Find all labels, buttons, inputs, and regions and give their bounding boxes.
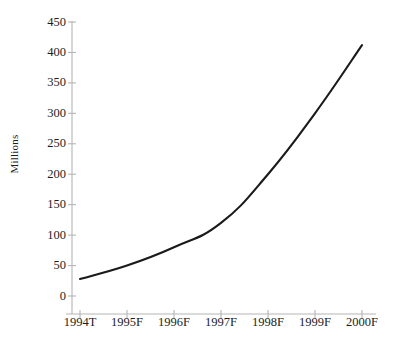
y-axis-tick-label: 0	[60, 290, 66, 303]
axis-tick-marks	[68, 22, 362, 319]
plot-area	[72, 14, 382, 304]
y-axis-tick-label: 50	[54, 259, 67, 272]
plot-svg	[72, 14, 382, 304]
y-axis-title-label: Millions	[8, 94, 20, 214]
data-series-line	[80, 45, 362, 279]
y-axis-title: Millions	[0, 0, 26, 349]
x-axis-tick-label: 2000F	[327, 314, 397, 330]
y-axis-tick-label: 250	[47, 137, 66, 150]
y-axis-tick-label: 400	[47, 46, 66, 59]
y-axis-tick-label: 150	[47, 198, 66, 211]
y-axis-tick-label: 200	[47, 168, 66, 181]
y-axis-tick-label: 100	[47, 229, 66, 242]
y-axis-tick-label: 350	[47, 76, 66, 89]
y-axis-tick-labels: 050100150200250300350400450	[26, 0, 70, 349]
y-axis-tick-label: 450	[47, 16, 66, 29]
line-chart: Millions 050100150200250300350400450 199…	[0, 0, 397, 349]
y-axis-tick-label: 300	[47, 107, 66, 120]
x-axis-tick-labels: 1994T1995F1996F1997F1998F1999F2000F	[0, 314, 397, 342]
